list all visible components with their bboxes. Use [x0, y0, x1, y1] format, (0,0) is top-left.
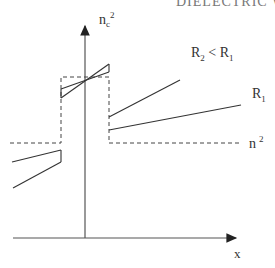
r1-label: R1 [252, 86, 266, 104]
cladding-index-base: n [249, 136, 256, 151]
comparison-b-sub: 1 [229, 53, 234, 63]
cladding-left-steep-r2 [13, 162, 61, 188]
cladding-index-label: n2 [249, 134, 264, 152]
comparison-label: R2 < R1 [191, 45, 234, 63]
r1-label-sub: 1 [261, 94, 266, 104]
cladding-index-sup: 2 [259, 134, 264, 144]
y-axis-label-sup: 2 [110, 10, 115, 20]
cladding-right-shallow-r1 [109, 105, 241, 130]
y-axis-label: nc2 [99, 10, 115, 29]
comparison-b: R [220, 45, 229, 60]
comparison-a: R [191, 45, 200, 60]
cladding-left-shallow-r1 [12, 150, 61, 162]
y-axis-label-base: n [99, 12, 106, 27]
y-axis-label-sub: c [106, 19, 110, 29]
core-step-profile-dashed [10, 77, 240, 143]
comparison-operator: < [205, 45, 220, 60]
index-profile-diagram [0, 0, 275, 268]
cladding-right-steep-r2 [109, 80, 180, 117]
r1-label-base: R [252, 86, 261, 101]
x-axis-label: x [234, 246, 241, 262]
